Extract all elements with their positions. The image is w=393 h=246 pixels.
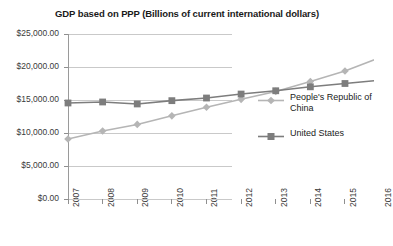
x-axis-tick-label: 2016 xyxy=(384,188,393,207)
y-axis-ticks xyxy=(64,34,68,199)
legend-label-united-states: United States xyxy=(290,128,374,139)
data-point-marker xyxy=(65,100,72,107)
gridlines xyxy=(68,34,232,199)
data-point-marker xyxy=(168,97,175,104)
data-point-marker xyxy=(133,121,141,129)
data-point-marker xyxy=(64,135,72,143)
legend-item-united-states: United States xyxy=(258,128,374,142)
data-point-marker xyxy=(99,127,107,135)
data-point-marker xyxy=(341,67,349,75)
data-point-marker xyxy=(134,101,141,108)
legend-swatch-china xyxy=(258,96,284,105)
legend-swatch-united-states xyxy=(258,132,284,141)
data-point-marker xyxy=(203,103,211,111)
data-point-marker xyxy=(203,95,210,102)
data-point-marker xyxy=(238,91,245,98)
x-axis-ticks xyxy=(68,199,374,204)
legend-label-china: People's Republic of China xyxy=(290,92,374,114)
chart-legend: People's Republic of China United States xyxy=(258,92,374,156)
data-point-marker xyxy=(99,99,106,106)
legend-item-china: People's Republic of China xyxy=(258,92,374,114)
data-point-marker xyxy=(307,83,314,90)
data-point-marker xyxy=(342,80,349,87)
data-point-marker xyxy=(168,112,176,120)
